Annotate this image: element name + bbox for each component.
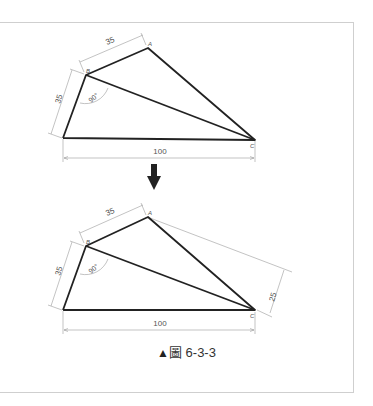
angle-label: 90° — [87, 91, 100, 103]
figure-caption: ▲圖 6-3-3 — [0, 342, 373, 361]
vertex-a-label: A — [147, 41, 152, 47]
dim-ab-label: 35 — [104, 206, 116, 218]
dim-bottom-label: 100 — [153, 319, 167, 328]
caption-figure-char: 圖 — [169, 345, 182, 360]
dim-left-label: 35 — [53, 93, 64, 105]
vertex-c-label: C — [250, 313, 255, 319]
top-diagram: 35 35 100 90° A B C — [48, 33, 255, 162]
angle-label: 90° — [87, 262, 100, 274]
dim-offset-label: 25 — [267, 291, 278, 303]
vertex-b-label: B — [86, 239, 90, 245]
caption-number: 6-3-3 — [186, 345, 216, 360]
vertex-a-label: A — [147, 210, 152, 216]
caption-triangle-icon: ▲ — [157, 346, 169, 360]
vertex-c-label: C — [250, 143, 255, 149]
bottom-diagram: 35 35 25 100 90° — [48, 203, 292, 334]
dim-ab-label: 35 — [104, 35, 116, 47]
quadrilateral-outline — [63, 217, 255, 310]
dim-bottom-label: 100 — [153, 147, 167, 156]
dim-offset — [150, 218, 292, 317]
down-arrow-icon — [147, 164, 161, 190]
vertex-b-label: B — [86, 68, 90, 74]
dim-left-label: 35 — [53, 265, 64, 277]
